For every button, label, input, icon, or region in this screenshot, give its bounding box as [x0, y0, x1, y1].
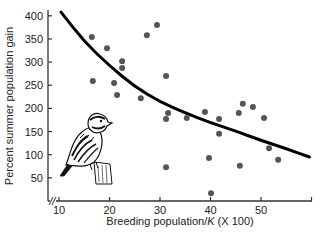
- data-point: [90, 78, 96, 84]
- data-point: [206, 155, 212, 161]
- y-tick-label: 150: [25, 126, 43, 138]
- x-ticks: 1020304050: [53, 197, 312, 216]
- data-point: [154, 22, 160, 28]
- y-tick-label: 300: [25, 56, 43, 68]
- data-point: [89, 34, 95, 40]
- data-point: [184, 115, 190, 121]
- y-tick-label: 200: [25, 102, 43, 114]
- quail-illustration-icon: [60, 113, 112, 184]
- y-axis-label: Percent summer population gain: [3, 27, 15, 185]
- data-point: [111, 80, 117, 86]
- y-tick-label: 250: [25, 79, 43, 91]
- x-tick-label: 10: [53, 204, 65, 216]
- data-point: [163, 73, 169, 79]
- data-point: [119, 58, 125, 64]
- y-tick-label: 350: [25, 33, 43, 45]
- data-point: [275, 157, 281, 163]
- plot-area: 50100150200250300350400 1020304050: [0, 0, 323, 240]
- data-point: [250, 104, 256, 110]
- data-points: [89, 22, 281, 196]
- scatter-chart: 50100150200250300350400 1020304050: [0, 0, 323, 240]
- x-axis-label: Breeding population/K (X 100): [106, 215, 253, 227]
- data-point: [138, 95, 144, 101]
- data-point: [163, 164, 169, 170]
- x-tick-label: 50: [255, 204, 267, 216]
- data-point: [261, 115, 267, 121]
- y-tick-label: 100: [25, 149, 43, 161]
- data-point: [208, 190, 214, 196]
- data-point: [119, 65, 125, 71]
- data-point: [202, 109, 208, 115]
- data-point: [144, 32, 150, 38]
- data-point: [114, 92, 120, 98]
- y-tick-label: 400: [25, 10, 43, 22]
- data-point: [216, 131, 222, 137]
- data-point: [216, 116, 222, 122]
- data-point: [266, 145, 272, 151]
- data-point: [236, 110, 242, 116]
- data-point: [237, 163, 243, 169]
- data-point: [163, 116, 169, 122]
- axes: [48, 10, 312, 206]
- data-point: [104, 45, 110, 51]
- y-tick-label: 50: [31, 172, 43, 184]
- data-point: [165, 110, 171, 116]
- data-point: [240, 101, 246, 107]
